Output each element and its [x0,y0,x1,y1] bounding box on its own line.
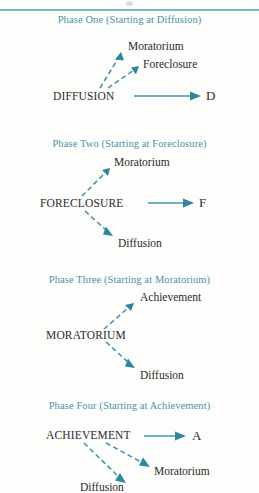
phase-one-diagram: Moratorium Foreclosure DIFFUSION D [0,25,259,121]
edge-moratorium-to-diffusion [106,342,129,363]
edge-achievement-to-moratorium [106,443,143,463]
arrowhead-diffusion-to-foreclosure [131,66,139,75]
phase-four-title: Phase Four (Starting at Achievement) [0,400,259,411]
phase-two-diagram: Moratorium FORECLOSURE F Diffusion [0,149,259,253]
phase-four-edges [0,411,259,491]
node-moratorium-source: MORATORIUM [46,330,126,342]
scan-artifact-speck [126,1,133,6]
arrowhead-achievement-to-moratorium [139,458,150,468]
phase-three-section: Phase Three (Starting at Moratorium) Ach… [0,274,259,385]
node-achievement: Achievement [140,292,201,304]
top-horizontal-rule [0,9,259,11]
arrowhead-diffusion-to-d [190,92,201,101]
edge-moratorium-to-achievement [104,308,128,329]
arrowhead-achievement-to-a [175,432,186,441]
phase-one-section: Phase One (Starting at Diffusion) Morato… [0,14,259,121]
node-outcome-a: A [192,429,201,442]
phase-four-diagram: ACHIEVEMENT A Moratorium Diffusion [0,411,259,491]
arrowhead-foreclosure-to-f [183,199,194,208]
node-outcome-d: D [206,89,215,102]
node-diffusion: Diffusion [140,370,184,382]
phase-four-section: Phase Four (Starting at Achievement) ACH… [0,400,259,491]
edge-foreclosure-to-diffusion [85,211,107,231]
node-moratorium: Moratorium [154,466,210,478]
edge-foreclosure-to-moratorium [82,173,105,196]
phase-three-edges [0,285,259,385]
phase-two-title: Phase Two (Starting at Foreclosure) [0,138,259,149]
node-diffusion: Diffusion [80,482,124,493]
node-foreclosure-source: FORECLOSURE [40,198,123,210]
phase-one-title: Phase One (Starting at Diffusion) [0,14,259,25]
node-outcome-f: F [199,196,206,209]
node-achievement-source: ACHIEVEMENT [46,430,131,442]
phase-two-section: Phase Two (Starting at Foreclosure) Mora… [0,138,259,253]
node-moratorium: Moratorium [128,41,184,53]
node-foreclosure: Foreclosure [143,59,197,71]
node-diffusion-source: DIFFUSION [53,91,114,103]
node-moratorium: Moratorium [114,157,170,169]
phase-three-diagram: Achievement MORATORIUM Diffusion [0,285,259,385]
node-diffusion: Diffusion [118,238,162,250]
edge-diffusion-to-foreclosure [108,70,134,88]
arrowhead-foreclosure-to-moratorium [102,168,110,176]
arrowhead-diffusion-to-moratorium [115,52,124,61]
phase-three-title: Phase Three (Starting at Moratorium) [0,274,259,285]
edge-diffusion-to-moratorium [100,57,119,88]
